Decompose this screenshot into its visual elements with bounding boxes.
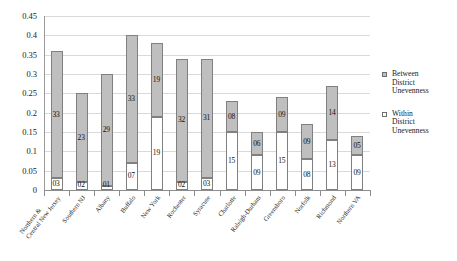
x-axis-category-label: Norfolk: [311, 198, 312, 199]
bar-segment-within[interactable]: 03: [201, 178, 213, 190]
bar-group[interactable]: 0609: [251, 132, 263, 190]
bar-segment-within[interactable]: 15: [226, 132, 238, 190]
x-axis-label-line: Albany: [94, 194, 112, 214]
x-axis-label-line: Greensboro: [262, 194, 287, 223]
y-axis-tick-label: 0.4: [26, 31, 37, 40]
x-axis-label-line: Richmond: [314, 194, 337, 220]
bar-value-label: 09: [253, 169, 260, 177]
bar-group[interactable]: 3202: [176, 59, 188, 190]
plot-area: 3303230229013307191932023103081506090915…: [44, 16, 370, 190]
bar-segment-within[interactable]: 09: [351, 155, 363, 190]
bar-value-label: 08: [303, 171, 310, 179]
bar-value-label: 09: [303, 138, 310, 146]
bar-segment-within[interactable]: 19: [151, 117, 163, 190]
x-axis-category-label: Albany: [111, 198, 112, 199]
bar-segment-between[interactable]: 06: [251, 132, 263, 155]
x-axis-label-line: Norfolk: [293, 194, 312, 215]
x-axis-category-label: Southern NJ: [86, 198, 87, 199]
bar-series-container: 3303230229013307191932023103081506090915…: [44, 16, 370, 190]
bar-segment-between[interactable]: 09: [301, 124, 313, 159]
x-axis-category-label: Northern &Central New Jersey: [61, 198, 62, 199]
bar-segment-within[interactable]: 07: [126, 163, 138, 190]
bar-segment-between[interactable]: 31: [201, 59, 213, 179]
legend-item-within[interactable]: WithinDistrictUnevenness: [382, 110, 457, 136]
x-axis-label-line: Northern VA: [336, 194, 363, 225]
y-axis-tick-label: 0.05: [22, 166, 37, 175]
y-axis-line: [44, 16, 45, 191]
bar-value-label: 03: [203, 180, 210, 188]
bar-segment-between[interactable]: 29: [101, 74, 113, 186]
bar-group[interactable]: 1919: [151, 43, 163, 190]
bar-value-label: 15: [278, 157, 285, 165]
bar-group[interactable]: 0908: [301, 124, 313, 190]
bar-group[interactable]: 0915: [276, 97, 288, 190]
bar-value-label: 19: [153, 76, 160, 84]
bar-value-label: 33: [128, 95, 135, 103]
y-axis-tick-label: 0.25: [22, 89, 37, 98]
legend-swatch-within: [382, 112, 387, 117]
bar-segment-within[interactable]: 15: [276, 132, 288, 190]
bar-segment-between[interactable]: 14: [326, 86, 338, 140]
bar-value-label: 33: [53, 111, 60, 119]
x-axis-category-label: Greensboro: [286, 198, 287, 199]
y-axis-tick-label: 0.1: [26, 147, 37, 156]
bar-group[interactable]: 2901: [101, 74, 113, 190]
x-axis-label-line: Rochester: [165, 194, 187, 219]
bar-value-label: 23: [78, 134, 85, 142]
bar-segment-between[interactable]: 09: [276, 97, 288, 132]
bar-group[interactable]: 0815: [226, 101, 238, 190]
stacked-column-chart: 00.050.10.150.20.250.30.350.40.45 330323…: [0, 0, 457, 261]
x-axis-label-line: Syracuse: [191, 194, 212, 217]
bar-segment-within[interactable]: 13: [326, 140, 338, 190]
x-axis-category-label: Charlotte: [236, 198, 237, 199]
bar-value-label: 15: [228, 157, 235, 165]
x-axis-category-label: Buffalo: [136, 198, 137, 199]
y-axis-tick-label: 0.45: [22, 12, 37, 21]
bar-value-label: 32: [178, 116, 185, 124]
bar-value-label: 06: [253, 140, 260, 148]
y-axis-tick-label: 0.15: [22, 128, 37, 137]
y-axis-tick-label: 0.3: [26, 70, 37, 79]
x-axis-label-line: New York: [139, 194, 161, 220]
bar-segment-between[interactable]: 23: [76, 93, 88, 182]
legend-item-between[interactable]: BetweenDistrictUnevenness: [382, 70, 457, 96]
bar-segment-within[interactable]: 02: [76, 182, 88, 190]
legend-label: BetweenDistrictUnevenness: [392, 70, 457, 96]
x-axis-label-line: Southern NJ: [60, 194, 86, 225]
bar-value-label: 08: [228, 113, 235, 121]
bar-group[interactable]: 1413: [326, 86, 338, 190]
bar-segment-between[interactable]: 32: [176, 59, 188, 183]
x-axis-category-label: Rochester: [186, 198, 187, 199]
bar-value-label: 02: [178, 181, 185, 189]
bar-value-label: 01: [103, 181, 110, 189]
y-axis-tick-label: 0.35: [22, 50, 37, 59]
bar-value-label: 14: [328, 109, 335, 117]
bar-value-label: 03: [53, 180, 60, 188]
x-axis-category-label: Northern VA: [361, 198, 362, 199]
legend-label: WithinDistrictUnevenness: [392, 110, 457, 136]
bar-segment-within[interactable]: 08: [301, 159, 313, 190]
x-axis-category-label: Richmond: [336, 198, 337, 199]
bar-group[interactable]: 3103: [201, 59, 213, 190]
bar-value-label: 19: [153, 149, 160, 157]
bar-group[interactable]: 3303: [51, 51, 63, 190]
bar-value-label: 31: [203, 114, 210, 122]
bar-segment-between[interactable]: 08: [226, 101, 238, 132]
y-axis-tick-label: 0.2: [26, 108, 37, 117]
bar-segment-between[interactable]: 19: [151, 43, 163, 116]
chart-legend: BetweenDistrictUnevennessWithinDistrictU…: [382, 70, 457, 150]
bar-segment-within[interactable]: 09: [251, 155, 263, 190]
bar-value-label: 05: [353, 142, 360, 150]
bar-value-label: 07: [128, 172, 135, 180]
bar-group[interactable]: 2302: [76, 93, 88, 190]
bar-value-label: 09: [278, 111, 285, 119]
bar-segment-within[interactable]: 02: [176, 182, 188, 190]
x-axis-labels: Northern &Central New JerseySouthern NJA…: [0, 190, 457, 261]
bar-segment-between[interactable]: 05: [351, 136, 363, 155]
bar-segment-within[interactable]: 03: [51, 178, 63, 190]
bar-segment-between[interactable]: 33: [126, 35, 138, 163]
bar-segment-between[interactable]: 33: [51, 51, 63, 179]
bar-group[interactable]: 0509: [351, 136, 363, 190]
bar-group[interactable]: 3307: [126, 35, 138, 190]
x-axis-label-line: Charlotte: [216, 194, 237, 218]
